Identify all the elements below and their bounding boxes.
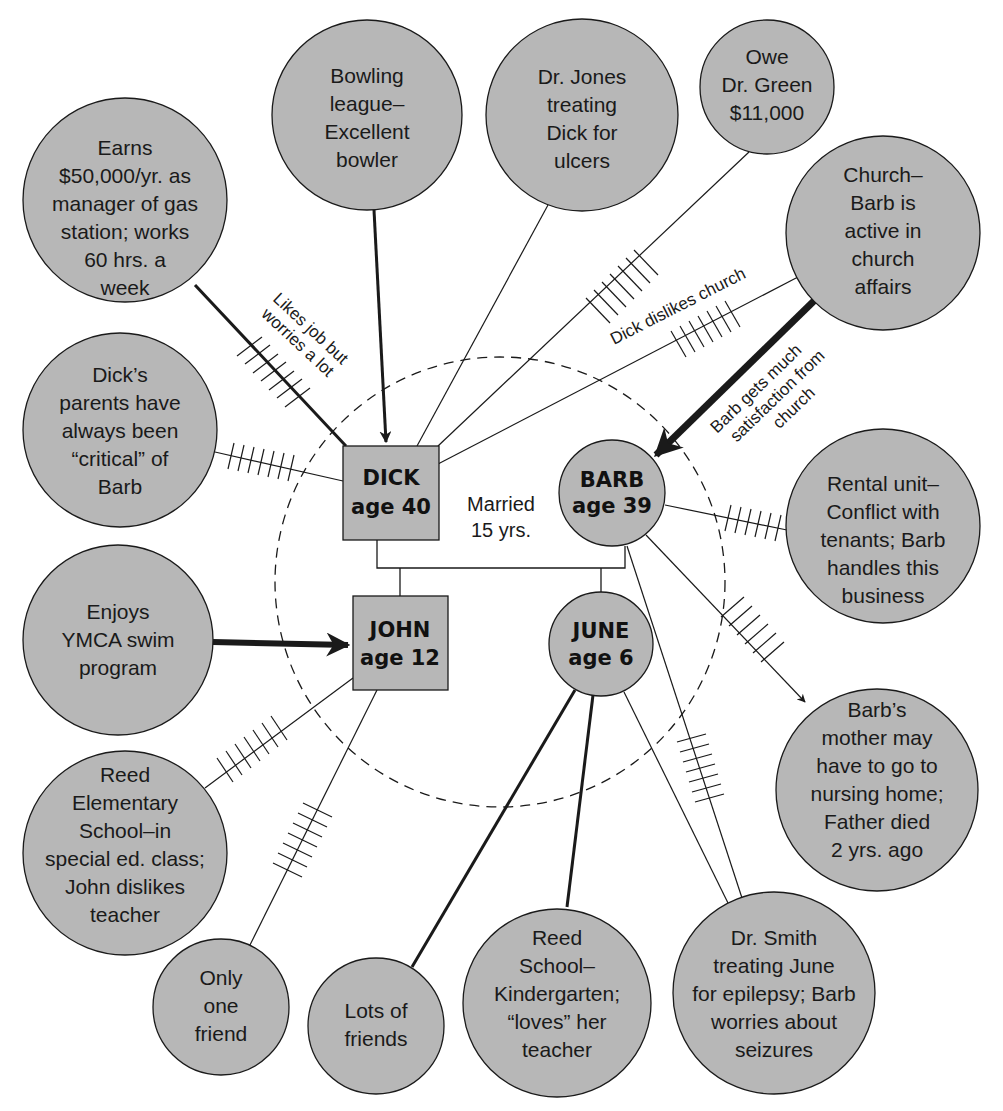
svg-text:bowler: bowler	[336, 148, 398, 171]
household-boundary	[275, 357, 725, 807]
node-parents: Dick’s parents have always been “critica…	[23, 333, 217, 527]
svg-text:Dick’s: Dick’s	[92, 363, 148, 386]
svg-text:for epilepsy; Barb: for epilepsy; Barb	[692, 982, 855, 1005]
svg-text:Bowling: Bowling	[330, 64, 404, 87]
svg-text:seizures: seizures	[735, 1038, 813, 1061]
svg-text:tenants; Barb: tenants; Barb	[821, 528, 946, 551]
node-bowling: Bowling league– Excellent bowler	[272, 20, 462, 210]
edge-label-job: Likes job but worries a lot	[256, 289, 352, 382]
person-dick: DICK age 40	[343, 446, 439, 540]
svg-text:have to go to: have to go to	[816, 754, 937, 777]
stress-marks-reedelem	[217, 716, 287, 782]
svg-text:active in: active in	[844, 219, 921, 242]
svg-text:age 6: age 6	[568, 646, 633, 670]
svg-text:friends: friends	[344, 1027, 407, 1050]
svg-text:teacher: teacher	[522, 1038, 592, 1061]
stress-marks-drsmith	[677, 734, 724, 802]
node-lots-friends: Lots of friends	[308, 958, 444, 1094]
ecomap-diagram: Likes job but worries a lot Dick dislike…	[0, 0, 1003, 1111]
svg-text:friend: friend	[195, 1022, 248, 1045]
svg-text:Barb: Barb	[98, 475, 142, 498]
svg-text:Reed: Reed	[100, 763, 150, 786]
svg-text:Earns: Earns	[98, 136, 153, 159]
node-one-friend: Only one friend	[153, 939, 289, 1075]
node-rental: Rental unit– Conflict with tenants; Barb…	[786, 429, 980, 623]
svg-text:treating: treating	[547, 93, 617, 116]
svg-text:age 12: age 12	[360, 646, 440, 670]
stress-marks-onefriend	[273, 803, 332, 877]
svg-text:parents have: parents have	[59, 391, 180, 414]
node-drjones: Dr. Jones treating Dick for ulcers	[486, 19, 678, 211]
svg-text:program: program	[79, 656, 157, 679]
svg-text:YMCA swim: YMCA swim	[61, 628, 174, 651]
svg-text:ulcers: ulcers	[554, 149, 610, 172]
edge-john-onefriend	[250, 690, 377, 945]
svg-text:age 40: age 40	[351, 495, 431, 519]
svg-text:Church–: Church–	[843, 163, 923, 186]
svg-text:$50,000/yr. as: $50,000/yr. as	[59, 164, 191, 187]
svg-text:Father died: Father died	[824, 810, 930, 833]
node-earns: Earns $50,000/yr. as manager of gas stat…	[23, 98, 227, 302]
svg-text:nursing home;: nursing home;	[810, 782, 943, 805]
person-john: JOHN age 12	[353, 596, 448, 690]
svg-text:Dr. Jones: Dr. Jones	[538, 65, 627, 88]
marriage-line	[377, 540, 625, 568]
edge-label-barb-church: Barb gets much satisfaction from church	[707, 332, 843, 466]
svg-text:Excellent: Excellent	[324, 120, 409, 143]
svg-text:Lots of: Lots of	[344, 999, 407, 1022]
svg-text:BARB: BARB	[580, 468, 644, 492]
svg-text:Dick for: Dick for	[546, 121, 617, 144]
node-drgreen: Owe Dr. Green $11,000	[700, 20, 834, 154]
svg-text:station; works: station; works	[61, 220, 189, 243]
svg-text:60 hrs. a: 60 hrs. a	[84, 248, 166, 271]
svg-text:week: week	[99, 276, 150, 299]
svg-text:special ed. class;: special ed. class;	[45, 847, 205, 870]
svg-text:business: business	[842, 584, 925, 607]
edge-june-kinder	[567, 695, 593, 907]
svg-text:School–: School–	[519, 954, 595, 977]
svg-text:church: church	[851, 247, 914, 270]
svg-text:2 yrs. ago: 2 yrs. ago	[831, 838, 923, 861]
edge-bowling-dick	[374, 210, 386, 442]
svg-text:“critical” of: “critical” of	[72, 447, 169, 470]
svg-text:mother may: mother may	[822, 726, 933, 749]
svg-text:always been: always been	[62, 419, 179, 442]
svg-text:Rental unit–: Rental unit–	[827, 472, 939, 495]
svg-text:Dr. Green: Dr. Green	[721, 73, 812, 96]
svg-text:Kindergarten;: Kindergarten;	[494, 982, 620, 1005]
svg-text:Only: Only	[199, 966, 243, 989]
svg-text:JOHN: JOHN	[368, 618, 431, 642]
stress-marks-mother	[721, 597, 784, 662]
svg-text:Owe: Owe	[745, 45, 788, 68]
svg-text:one: one	[203, 994, 238, 1017]
svg-text:worries about: worries about	[710, 1010, 837, 1033]
svg-text:JUNE: JUNE	[571, 619, 630, 643]
svg-text:DICK: DICK	[363, 466, 421, 490]
svg-text:Conflict with: Conflict with	[826, 500, 939, 523]
svg-text:School–in: School–in	[79, 819, 171, 842]
node-reed-elementary: Reed Elementary School–in special ed. cl…	[23, 751, 227, 955]
svg-text:Reed: Reed	[532, 926, 582, 949]
edge-ymca-john	[213, 642, 348, 645]
node-mother: Barb’s mother may have to go to nursing …	[776, 689, 978, 891]
svg-text:Barb is: Barb is	[850, 191, 915, 214]
svg-text:teacher: teacher	[90, 903, 160, 926]
node-church: Church– Barb is active in church affairs	[786, 136, 980, 330]
svg-text:John dislikes: John dislikes	[65, 875, 185, 898]
svg-text:manager of gas: manager of gas	[52, 192, 198, 215]
svg-text:affairs: affairs	[855, 275, 912, 298]
svg-text:Married: Married	[467, 493, 535, 515]
edge-barb-drsmith	[627, 546, 742, 898]
svg-text:league–: league–	[330, 92, 405, 115]
svg-text:Enjoys: Enjoys	[86, 600, 149, 623]
node-ymca: Enjoys YMCA swim program	[23, 545, 213, 735]
edge-drjones-dick	[417, 205, 548, 446]
svg-text:treating June: treating June	[713, 954, 834, 977]
married-label: Married 15 yrs.	[467, 493, 535, 541]
person-barb: BARB age 39	[559, 440, 665, 546]
person-june: JUNE age 6	[549, 592, 653, 696]
stress-marks-parents	[228, 443, 294, 481]
svg-text:Elementary: Elementary	[72, 791, 179, 814]
node-drsmith: Dr. Smith treating June for epilepsy; Ba…	[673, 892, 875, 1094]
svg-text:age 39: age 39	[572, 494, 652, 518]
